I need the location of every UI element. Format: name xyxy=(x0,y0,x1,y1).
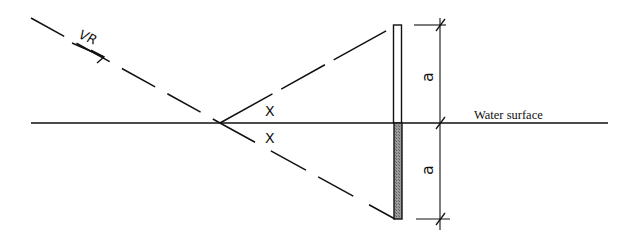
upper-sightline xyxy=(220,27,393,123)
dimension-label-lower: a xyxy=(418,165,437,175)
angle-label-lower: X xyxy=(265,130,275,146)
incident-ray-line xyxy=(31,18,220,123)
reflection-diagram: VR X X a a Water surface xyxy=(0,0,624,242)
bar-below-water xyxy=(394,123,402,219)
water-surface-label: Water surface xyxy=(474,108,543,122)
bar-above-water xyxy=(394,25,402,123)
angle-label-upper: X xyxy=(265,103,275,119)
dimension-label-upper: a xyxy=(418,72,437,82)
lower-sightline xyxy=(220,123,395,219)
